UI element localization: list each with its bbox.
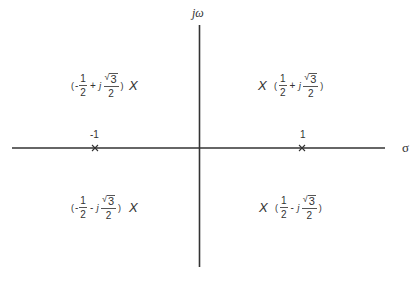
pole-marker-lower-right: X [259, 201, 268, 214]
imag-numerator: √3 [303, 73, 318, 87]
tick-label-pos1: 1 [300, 130, 306, 140]
imag-denominator: 2 [108, 87, 114, 99]
radicand: 3 [309, 73, 317, 85]
operator: - [90, 203, 93, 213]
close-paren: ) [118, 204, 121, 213]
close-paren: ) [320, 82, 323, 91]
imaginary-unit: j [298, 81, 301, 91]
imag-numerator: √3 [104, 73, 119, 87]
imag-numerator: √3 [101, 195, 116, 209]
open-paren: ( [71, 204, 74, 213]
imag-denominator: 2 [308, 87, 314, 99]
real-part-fraction: 1 2 [280, 196, 288, 220]
real-numerator: 1 [79, 196, 87, 208]
imaginary-unit: j [99, 81, 102, 91]
pole-label-upper-left: ( - 1 2 + j √3 2 ) [70, 73, 125, 99]
close-paren: ) [121, 82, 124, 91]
imaginary-axis-label: jω [192, 6, 204, 21]
real-denominator: 2 [281, 208, 287, 220]
pole-label-lower-right: ( 1 2 - j √3 2 ) [274, 195, 323, 221]
real-sign: - [75, 203, 78, 213]
pole-label-upper-right: ( 1 2 + j √3 2 ) [273, 73, 324, 99]
pole-label-lower-left: ( - 1 2 - j √3 2 ) [70, 195, 122, 221]
real-numerator: 1 [280, 196, 288, 208]
real-denominator: 2 [280, 86, 286, 98]
real-part-fraction: 1 2 [279, 74, 287, 98]
radicand: 3 [308, 195, 316, 207]
imag-part-fraction: √3 2 [303, 73, 318, 99]
open-paren: ( [274, 82, 277, 91]
axes-canvas [0, 0, 418, 281]
operator: - [291, 203, 294, 213]
imag-denominator: 2 [306, 209, 312, 221]
real-numerator: 1 [279, 74, 287, 86]
imag-part-fraction: √3 2 [302, 195, 317, 221]
operator: + [290, 81, 296, 91]
radicand: 3 [107, 195, 115, 207]
pole-marker-upper-left: X [129, 79, 138, 92]
close-paren: ) [319, 204, 322, 213]
imag-denominator: 2 [106, 209, 112, 221]
imaginary-unit: j [297, 203, 300, 213]
radicand: 3 [109, 73, 117, 85]
open-paren: ( [71, 82, 74, 91]
imaginary-unit: j [96, 203, 99, 213]
imag-part-fraction: √3 2 [101, 195, 116, 221]
real-axis-label: σ [402, 140, 409, 156]
real-numerator: 1 [79, 74, 87, 86]
operator: + [90, 81, 96, 91]
pole-marker-lower-left: X [129, 201, 138, 214]
pole-marker-upper-right: X [258, 79, 267, 92]
imag-numerator: √3 [302, 195, 317, 209]
open-paren: ( [275, 204, 278, 213]
real-part-fraction: 1 2 [79, 74, 87, 98]
real-denominator: 2 [80, 208, 86, 220]
tick-label-neg1: -1 [90, 130, 99, 140]
real-part-fraction: 1 2 [79, 196, 87, 220]
imag-part-fraction: √3 2 [104, 73, 119, 99]
real-denominator: 2 [80, 86, 86, 98]
real-sign: - [75, 81, 78, 91]
